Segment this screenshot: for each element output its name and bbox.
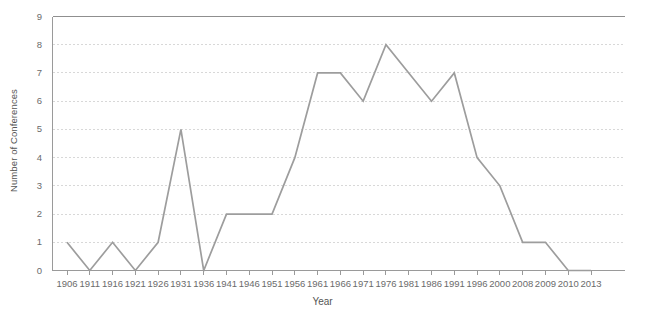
y-axis-ticks: 0123456789: [37, 11, 42, 276]
x-tick-label: 1931: [170, 278, 191, 289]
x-tick-label: 1971: [353, 278, 374, 289]
gridlines: [53, 17, 626, 243]
x-tick-label: 1926: [148, 278, 169, 289]
line-chart: Number of Conferences 0123456789 1906191…: [0, 0, 645, 316]
x-tick-label: 1961: [307, 278, 328, 289]
plot-area: 0123456789 19061911191619211926193119361…: [0, 0, 645, 316]
x-tick-label: 2008: [512, 278, 533, 289]
x-tick-label: 1966: [330, 278, 351, 289]
x-tick-label: 1986: [421, 278, 442, 289]
x-tick-label: 2000: [489, 278, 510, 289]
y-tick-label: 8: [37, 39, 42, 50]
x-tick-label: 1956: [284, 278, 305, 289]
x-tick-label: 1996: [467, 278, 488, 289]
x-tick-label: 1981: [398, 278, 419, 289]
x-tick-label: 1911: [80, 278, 100, 289]
y-tick-label: 6: [37, 95, 42, 106]
x-tick-label: 1951: [261, 278, 282, 289]
y-tick-label: 1: [37, 236, 42, 247]
y-tick-label: 5: [37, 123, 42, 134]
x-tick-label: 1906: [56, 278, 77, 289]
y-tick-label: 0: [37, 265, 42, 276]
x-tick-label: 1916: [102, 278, 123, 289]
x-tick-label: 2009: [535, 278, 556, 289]
y-tick-label: 7: [37, 67, 42, 78]
x-tick-label: 1976: [375, 278, 396, 289]
x-axis-ticks: 1906191119161921192619311936194119461951…: [56, 271, 601, 289]
x-tick-label: 1921: [125, 278, 146, 289]
y-tick-label: 9: [37, 11, 42, 22]
x-tick-label: 2013: [580, 278, 601, 289]
x-axis-title: Year: [0, 296, 645, 307]
x-tick-label: 1991: [444, 278, 465, 289]
y-tick-label: 4: [37, 152, 42, 163]
x-tick-label: 1946: [239, 278, 260, 289]
y-tick-label: 2: [37, 208, 42, 219]
x-tick-label: 1941: [216, 278, 237, 289]
y-tick-label: 3: [37, 180, 42, 191]
x-tick-label: 2010: [558, 278, 579, 289]
x-tick-label: 1936: [193, 278, 214, 289]
